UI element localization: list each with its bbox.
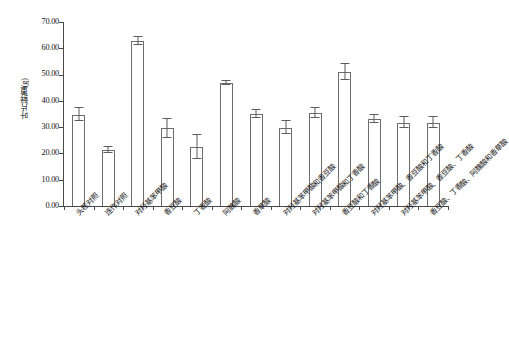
- y-tick-mark: [59, 153, 63, 154]
- x-tick-label: 头茬对照: [75, 192, 100, 217]
- x-tick-mark: [418, 206, 419, 210]
- x-tick-mark: [300, 206, 301, 210]
- y-tick-mark: [59, 75, 63, 76]
- y-tick-mark: [59, 206, 63, 207]
- y-tick-mark: [59, 127, 63, 128]
- x-tick-mark: [153, 206, 154, 210]
- x-tick-mark: [271, 206, 272, 210]
- x-tick-label: 阿魏酸: [222, 197, 243, 218]
- x-tick-label: 连作对照: [104, 192, 129, 217]
- x-tick-mark: [389, 206, 390, 210]
- x-tick-label: 香草酸: [252, 197, 273, 218]
- x-tick-mark: [241, 206, 242, 210]
- x-tick-mark: [212, 206, 213, 210]
- x-tick-mark: [64, 206, 65, 210]
- x-tick-mark: [448, 206, 449, 210]
- y-tick-mark: [59, 101, 63, 102]
- x-tick-label: 丁香酸: [193, 197, 214, 218]
- x-tick-label: 香豆酸: [163, 197, 184, 218]
- x-tick-mark: [182, 206, 183, 210]
- x-tick-mark: [94, 206, 95, 210]
- x-tick-mark: [359, 206, 360, 210]
- y-tick-mark: [59, 48, 63, 49]
- y-tick-mark: [59, 180, 63, 181]
- x-tick-label: 对羟基苯甲酸和香豆酸: [282, 163, 337, 218]
- x-tick-mark: [123, 206, 124, 210]
- x-tick-mark: [330, 206, 331, 210]
- x-tick-label: 对羟基苯甲酸和丁香酸: [311, 163, 366, 218]
- y-tick-mark: [59, 22, 63, 23]
